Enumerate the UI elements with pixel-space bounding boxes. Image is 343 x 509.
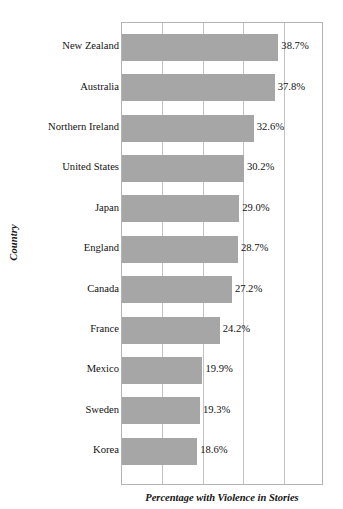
bar — [122, 155, 244, 182]
bar — [122, 317, 220, 344]
bar — [122, 276, 232, 303]
bar — [122, 115, 254, 142]
category-label: Japan — [18, 202, 119, 214]
bar — [122, 397, 200, 424]
bar — [122, 74, 275, 101]
category-label: France — [18, 323, 119, 335]
y-axis-title-text: Country — [8, 224, 19, 260]
category-label: United States — [18, 161, 119, 173]
bar — [122, 438, 197, 465]
bar — [122, 357, 202, 384]
category-label: Northern Ireland — [18, 121, 119, 133]
category-label: Australia — [18, 81, 119, 93]
gridline — [284, 23, 285, 484]
category-label: Canada — [18, 283, 119, 295]
plot-area — [121, 22, 323, 485]
x-axis-title: Percentage with Violence in Stories — [121, 492, 323, 503]
bar-chart: Country New ZealandAustraliaNorthern Ire… — [0, 0, 343, 509]
bar — [122, 195, 239, 222]
bar — [122, 236, 238, 263]
bar — [122, 34, 278, 61]
y-axis-tick-labels: New ZealandAustraliaNorthern IrelandUnit… — [18, 22, 119, 485]
category-label: England — [18, 242, 119, 254]
category-label: Mexico — [18, 363, 119, 375]
category-label: New Zealand — [18, 40, 119, 52]
category-label: Korea — [18, 444, 119, 456]
category-label: Sweden — [18, 404, 119, 416]
